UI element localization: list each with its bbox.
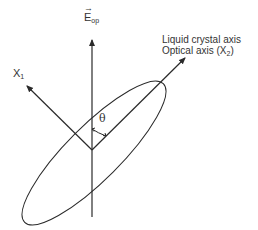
lc-axis-label: Liquid crystal axis Optical axis (X2) — [162, 34, 241, 57]
x1-axis-line — [27, 86, 92, 150]
theta-label: θ — [99, 113, 106, 124]
theta-arc — [92, 129, 106, 136]
optical-axis-line-label: Optical axis (X2) — [162, 45, 241, 57]
lc-axis-line1: Liquid crystal axis — [162, 34, 241, 45]
x2-subscript: 2 — [226, 50, 230, 57]
vector-arrow-icon: → — [84, 3, 93, 14]
field-subscript: op — [91, 17, 99, 24]
optical-axis-text: Optical axis (X — [162, 45, 226, 56]
x1-label: X1 — [13, 68, 24, 80]
field-label: →Eop — [84, 12, 99, 24]
x1-subscript: 1 — [20, 73, 24, 80]
optical-axis-close: ) — [230, 45, 233, 56]
